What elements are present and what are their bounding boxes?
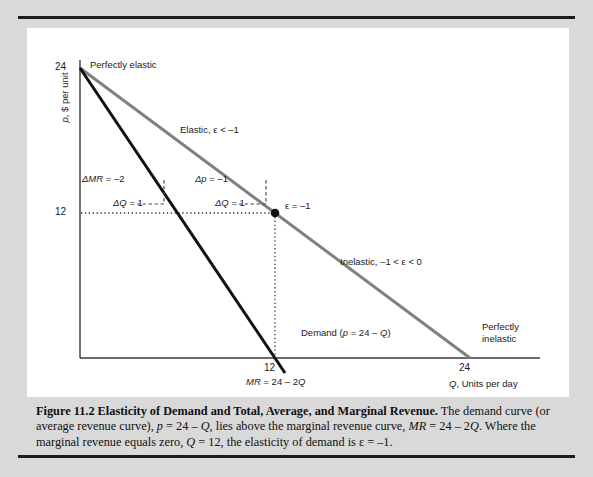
delta-q-left-value: = 1 xyxy=(127,197,143,208)
caption-title: Elasticity of Demand and Total, Average,… xyxy=(98,404,438,418)
annotation-perfectly-elastic: Perfectly elastic xyxy=(90,59,157,71)
demand-label-suffix: ) xyxy=(387,327,390,338)
caption-var-q-1: Q xyxy=(201,419,210,433)
delta-p-value: = –1 xyxy=(207,173,228,184)
figure-panel: 24 12 12 24 p, $ per unit Q, Units per d… xyxy=(27,28,569,397)
annotation-elastic: Elastic, ε < –1 xyxy=(180,124,239,136)
delta-q-left-symbol: ΔQ xyxy=(113,197,127,208)
y-axis-title: p, $ per unit xyxy=(59,43,70,153)
x-axis-title-rest: , Units per day xyxy=(456,378,517,389)
caption-text-2: = 24 – xyxy=(163,419,201,433)
annotation-unit-elastic: ε = –1 xyxy=(285,200,311,212)
chart-plot-area: 24 12 12 24 p, $ per unit Q, Units per d… xyxy=(27,28,569,397)
annotation-perfectly-inelastic: Perfectlyinelastic xyxy=(482,321,519,345)
x-tick-label-12: 12 xyxy=(264,362,275,373)
caption-figure-number: Figure 11.2 xyxy=(36,404,95,418)
caption-var-mr: MR xyxy=(408,419,426,433)
unit-elastic-point-marker xyxy=(271,209,280,218)
perfectly-inelastic-line1: Perfectly xyxy=(482,321,519,332)
annotation-delta-q-left: ΔQ = 1 xyxy=(113,197,143,209)
page-bottom-rule xyxy=(18,455,575,458)
figure-page: 24 12 12 24 p, $ per unit Q, Units per d… xyxy=(0,0,593,477)
caption-var-q-3: Q xyxy=(186,435,195,449)
delta-q-right-symbol: ΔQ xyxy=(215,197,229,208)
perfectly-inelastic-line2: inelastic xyxy=(482,333,516,344)
caption-text-6: = 12, the elasticity of demand is ε = –1… xyxy=(195,435,392,449)
mr-label-rest: = 24 – 2 xyxy=(261,376,298,387)
annotation-delta-q-right: ΔQ = 1 xyxy=(215,197,245,209)
x-tick-label-24: 24 xyxy=(459,362,470,373)
demand-label-prefix: Demand ( xyxy=(301,327,343,338)
annotation-mr-curve-label: MR = 24 – 2Q xyxy=(246,376,305,388)
annotation-inelastic: Inelastic, –1 < ε < 0 xyxy=(340,256,422,268)
delta-p-symbol: Δp xyxy=(195,173,207,184)
marginal-revenue-curve xyxy=(80,68,285,373)
caption-var-q-2: Q xyxy=(470,419,479,433)
y-axis-title-rest: , $ per unit xyxy=(59,72,70,117)
y-tick-label-12: 12 xyxy=(55,206,66,217)
annotation-delta-p: Δp = –1 xyxy=(195,173,228,185)
caption-text-4: = 24 – 2 xyxy=(426,419,470,433)
delta-q-right-value: = 1 xyxy=(229,197,245,208)
page-top-rule xyxy=(18,16,575,19)
annotation-delta-mr: ΔMR = –2 xyxy=(82,173,125,185)
figure-caption: Figure 11.2 Elasticity of Demand and Tot… xyxy=(36,404,558,450)
mr-label-q: Q xyxy=(298,376,305,387)
mr-label-symbol: MR xyxy=(246,376,261,387)
demand-label-mid: = 24 – xyxy=(348,327,380,338)
x-axis-title: Q, Units per day xyxy=(449,378,518,390)
caption-text-3: , lies above the marginal revenue curve, xyxy=(210,419,409,433)
delta-mr-symbol: ΔMR xyxy=(82,173,103,184)
annotation-demand-curve-label: Demand (p = 24 – Q) xyxy=(301,327,391,339)
y-axis-title-symbol: p xyxy=(59,117,70,122)
delta-mr-value: = –2 xyxy=(103,173,124,184)
